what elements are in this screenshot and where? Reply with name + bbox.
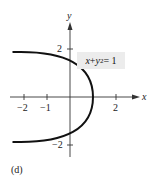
y-tick-label-2: 2 xyxy=(57,44,62,54)
x-axis-arrow-icon xyxy=(132,95,140,100)
equation-rhs: = 1 xyxy=(103,55,116,66)
equation-label: x + y2 = 1 xyxy=(77,52,125,69)
y-axis-label: y xyxy=(67,11,71,21)
y-axis-arrow-icon xyxy=(68,22,73,30)
x-tick-label-neg2: −2 xyxy=(17,103,28,113)
panel-label: (d) xyxy=(11,164,23,175)
x-tick-label-2: 2 xyxy=(113,103,118,113)
x-axis-label: x xyxy=(142,92,146,102)
parabola-plot xyxy=(0,0,155,185)
y-tick-label-neg2: −2 xyxy=(52,140,63,150)
x-tick-label-neg1: −1 xyxy=(40,103,51,113)
